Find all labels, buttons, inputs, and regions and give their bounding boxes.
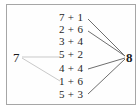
edge-2plus6-to-8 [88, 31, 125, 56]
equation-row: 5 + 2 [59, 49, 93, 60]
edge-7plus1-to-8 [88, 19, 125, 56]
edge-7-to-1plus6 [22, 58, 60, 81]
equation-row: 5 + 3 [59, 89, 93, 100]
equation-row: 7 + 1 [59, 12, 93, 23]
figure-root: 7 8 7 + 1 2 + 6 3 + 4 5 + 2 4 + 4 1 + 6 … [0, 0, 140, 112]
edge-4plus4-to-8 [88, 58, 125, 69]
left-node-label: 7 [13, 51, 20, 64]
equation-row: 2 + 6 [59, 24, 93, 35]
equation-row: 1 + 6 [59, 76, 93, 87]
equation-row: 4 + 4 [59, 63, 93, 74]
equation-row: 3 + 4 [59, 36, 93, 47]
right-node-label: 8 [126, 51, 133, 64]
edge-5plus3-to-8 [88, 59, 125, 94]
